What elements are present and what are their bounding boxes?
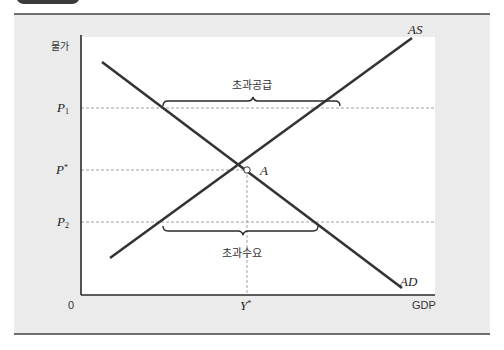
equilibrium-label: A (260, 163, 268, 179)
x-axis-label: GDP (412, 299, 436, 311)
p2-label: P2 (57, 214, 69, 230)
as-curve (110, 38, 412, 258)
p1-label: P1 (57, 100, 69, 116)
as-curve-label: AS (408, 22, 422, 38)
excess-demand-brace (163, 226, 318, 235)
guide-lines (81, 108, 435, 295)
pstar-label: P* (56, 162, 68, 178)
excess-supply-brace (163, 97, 340, 106)
excess-demand-label: 초과수요 (222, 244, 262, 260)
ad-as-chart (0, 0, 504, 350)
y-axis-label: 물가 (51, 38, 69, 53)
origin-label: 0 (68, 299, 74, 311)
excess-supply-label: 초과공급 (232, 76, 272, 92)
equilibrium-point-a (244, 167, 250, 173)
ystar-label: Y* (240, 298, 251, 314)
ad-curve-label: AD (400, 274, 417, 290)
